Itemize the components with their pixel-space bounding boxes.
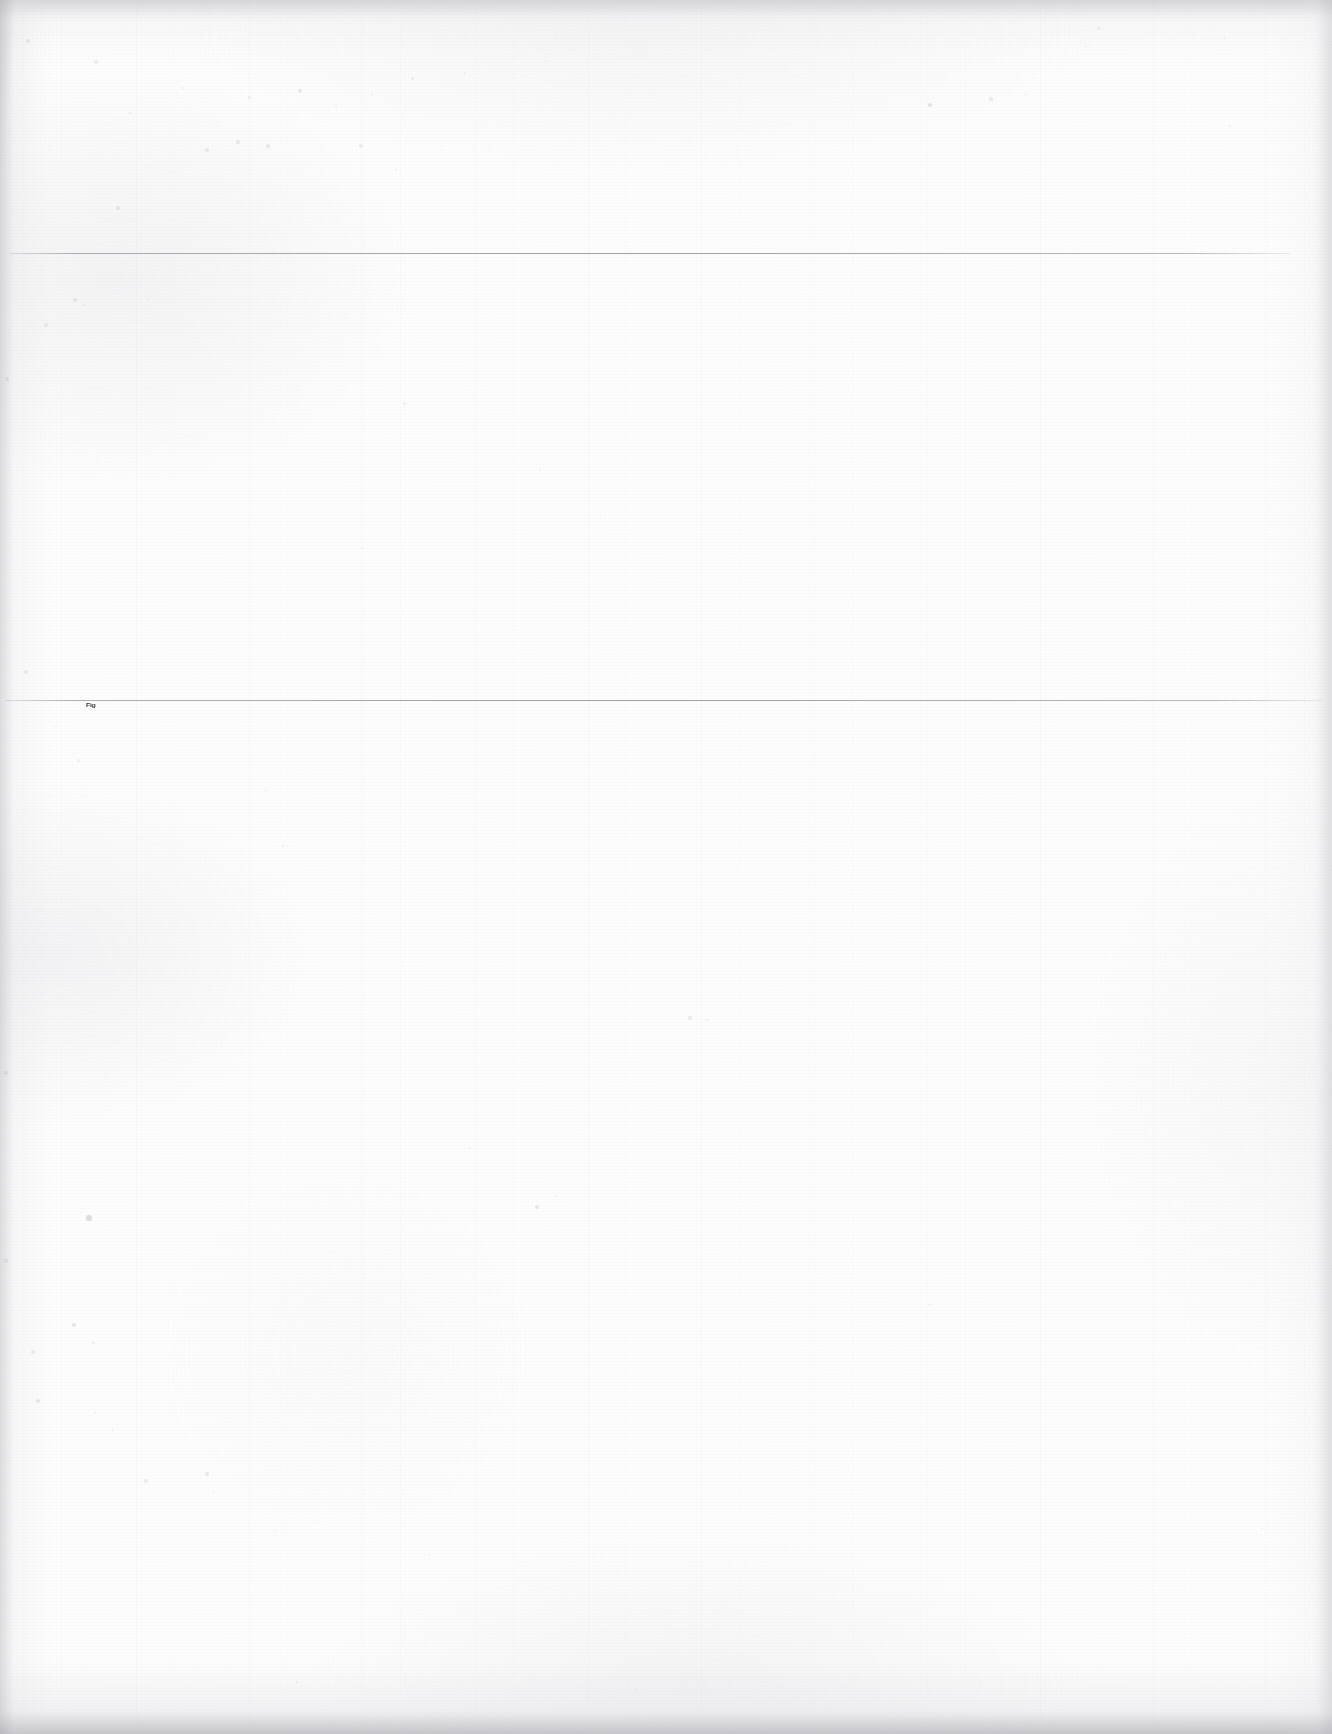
middle-band <box>0 253 1332 700</box>
header-band <box>0 0 1332 253</box>
body-band <box>0 700 1332 1734</box>
upper-rule <box>10 253 1290 254</box>
caption-label: Fig <box>86 702 96 708</box>
scanned-document-page: Fig <box>0 0 1332 1734</box>
lower-rule <box>5 700 1322 701</box>
